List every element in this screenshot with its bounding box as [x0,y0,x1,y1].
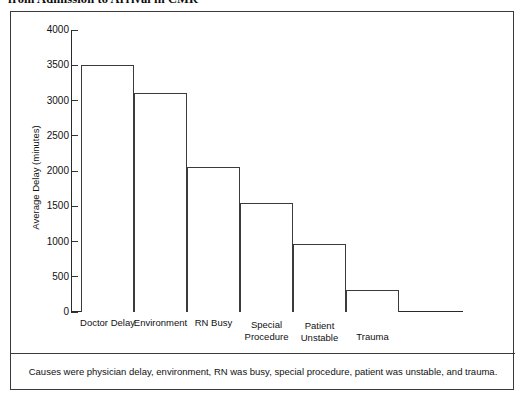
y-axis-tick: 4000 [11,24,79,36]
y-axis-tick-label: 4000 [47,24,69,36]
y-axis-tick: 1000 [11,236,79,248]
figure-caption: Causes were physician delay, environment… [11,353,515,390]
y-axis-tick: 500 [11,271,79,283]
y-axis-tick-label: 3000 [47,95,69,107]
bar [293,244,346,312]
y-axis-title: Average Delay (minutes) [30,108,41,248]
bar [240,203,293,312]
bar [346,290,399,312]
x-axis-tick-label-line: Trauma [334,331,411,343]
y-axis-tick: 2000 [11,165,79,177]
y-axis-tick-label: 2500 [47,130,69,142]
y-axis-tick-label: 1000 [47,236,69,248]
y-axis-tick: 3500 [11,59,79,71]
x-axis-tick-label: Trauma [334,331,411,343]
x-axis-tick-labels: Doctor DelayEnvironmentRN BusySpecialPro… [71,317,463,357]
y-axis-tick: 2500 [11,130,79,142]
y-axis-tick: 3000 [11,95,79,107]
bar [134,93,187,312]
figure-frame: Average Delay (minutes) 0500100015002000… [10,11,514,390]
y-axis-tick-label: 500 [52,271,69,283]
bar-chart-plot-area: Average Delay (minutes) 0500100015002000… [11,12,515,391]
figure-title: from Admission to Arrival in CMR [8,0,428,6]
bar [187,167,240,312]
bar-series [71,30,463,312]
y-axis-tick-label: 1500 [47,200,69,212]
bar [81,65,134,312]
y-axis-tick-label: 3500 [47,59,69,71]
y-axis-tick: 1500 [11,200,79,212]
y-axis-tick-label: 2000 [47,165,69,177]
